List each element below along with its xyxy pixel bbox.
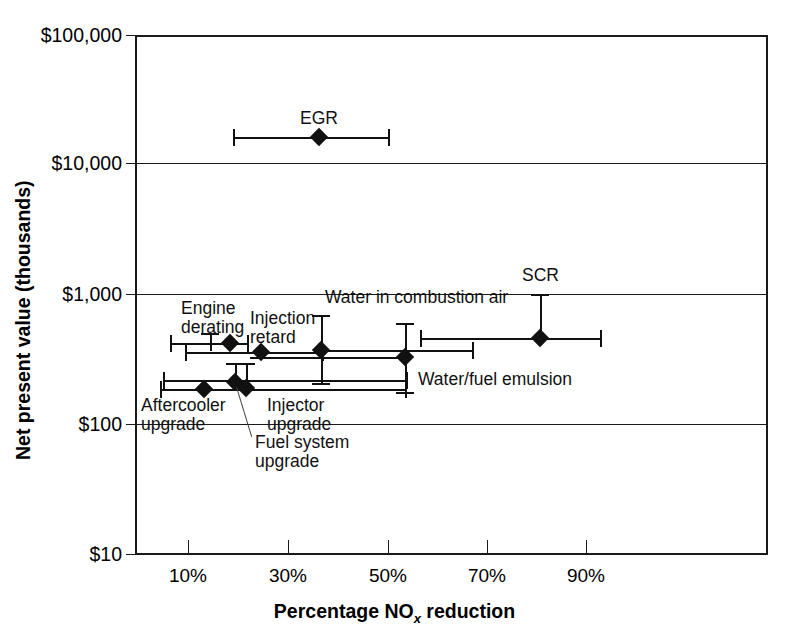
data-point-egr[interactable] [310,128,328,146]
x-tick-label-90: 90% [567,565,605,587]
errorbar-cap-bottom-water-in-combustion-air [312,383,330,385]
y-tick-mark-1000 [126,294,135,295]
y-tick-label-1000: $1,000 [0,283,122,306]
y-tick-mark-10 [126,554,135,555]
chart-root: Net present value (thousands) $100,000 $… [0,0,789,639]
gridline-100 [137,424,766,425]
errorbar-cap-left-engine-derating [170,335,172,352]
point-label-scr: SCR [522,266,559,285]
y-tick-label-10: $10 [0,543,122,566]
errorbar-cap-top-scr [531,294,549,296]
y-tick-mark-10000 [126,163,135,164]
x-tick-50 [388,540,389,553]
errorbar-h-water-in-combustion-air [321,350,472,352]
y-tick-label-100: $100 [0,413,122,436]
data-point-scr[interactable] [531,329,549,347]
point-label-injection-retard: Injection retard [250,309,315,347]
y-tick-mark-100 [126,424,135,425]
x-tick-label-30: 30% [269,565,307,587]
y-tick-label-100000: $100,000 [0,24,122,47]
x-tick-label-70: 70% [468,565,506,587]
x-tick-label-10: 10% [169,565,207,587]
x-tick-label-50: 50% [369,565,407,587]
errorbar-cap-top-water-fuel-emulsion [396,323,414,325]
point-label-fuel-system-upgrade: Fuel system upgrade [255,433,349,471]
errorbar-cap-right-water-in-combustion-air [472,342,474,359]
errorbar-cap-left-egr [233,129,235,146]
x-axis-title-post: reduction [421,600,515,622]
plot-area: EGR SCR Engine derating Injection retard [135,35,768,555]
x-axis-title-subscript: x [414,611,421,626]
errorbar-cap-left-fuel-system-upgrade [163,372,165,389]
errorbar-cap-right-fuel-system-upgrade [406,372,408,389]
errorbar-cap-left-injection-retard [185,344,187,361]
point-label-engine-derating: Engine derating [181,299,244,337]
point-label-water-in-combustion-air: Water in combustion air [325,288,508,307]
x-tick-30 [288,540,289,553]
point-label-water-fuel-emulsion: Water/fuel emulsion [418,370,572,389]
point-label-egr: EGR [300,109,338,128]
errorbar-h-scr [420,338,600,340]
errorbar-h-fuel-system-upgrade [163,380,406,382]
x-tick-10 [188,540,189,553]
x-axis-title-pre: Percentage NO [274,600,414,622]
errorbar-cap-right-engine-derating [247,335,249,352]
errorbar-cap-left-scr [420,330,422,347]
x-tick-70 [487,540,488,553]
x-tick-90 [586,540,587,553]
y-tick-label-10000: $10,000 [0,152,122,175]
errorbar-cap-right-scr [600,330,602,347]
errorbar-h-water-fuel-emulsion [250,357,405,359]
x-axis-title: Percentage NOx reduction [0,600,789,626]
errorbar-cap-top-injector-upgrade [237,363,255,365]
y-tick-mark-100000 [126,35,135,36]
errorbar-cap-top-water-in-combustion-air [312,315,330,317]
errorbar-cap-right-egr [388,129,390,146]
gridline-10000 [137,163,766,164]
point-label-injector-upgrade: Injector upgrade [267,396,331,434]
point-label-aftercooler-upgrade: Aftercooler upgrade [141,396,226,434]
